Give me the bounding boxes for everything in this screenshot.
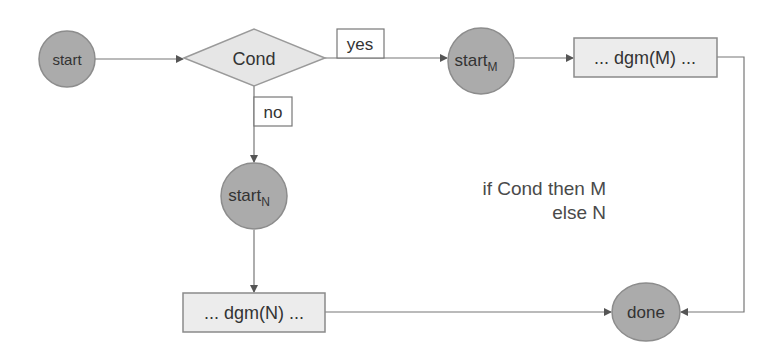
node-start-m-subscript: M xyxy=(488,60,498,74)
node-start-m-text: start xyxy=(454,51,487,70)
node-start-n-subscript: N xyxy=(261,195,270,209)
node-cond-label: Cond xyxy=(232,49,275,69)
caption-line-2: else N xyxy=(420,201,606,225)
node-start-m: startM xyxy=(448,28,514,94)
edge-label-no-text: no xyxy=(264,103,283,122)
edge-dgm-m-to-done xyxy=(681,57,744,312)
node-start-n-text: start xyxy=(228,186,261,205)
node-dgm-m: ... dgm(M) ... xyxy=(574,38,717,77)
node-dgm-n-label: ... dgm(N) ... xyxy=(204,303,304,323)
flowchart-canvas: start Cond yes no startM ... dgm(M) ... … xyxy=(0,0,781,353)
caption: if Cond then M else N xyxy=(420,177,606,225)
edge-label-yes: yes xyxy=(337,29,384,58)
edge-label-yes-text: yes xyxy=(347,35,373,54)
node-done-label: done xyxy=(627,303,665,322)
node-dgm-m-label: ... dgm(M) ... xyxy=(594,48,696,68)
node-start-label: start xyxy=(52,51,82,68)
node-done: done xyxy=(612,283,680,341)
node-start-n: startN xyxy=(221,163,287,229)
node-start: start xyxy=(39,31,95,87)
caption-line-1: if Cond then M xyxy=(420,177,606,201)
node-dgm-n: ... dgm(N) ... xyxy=(183,293,325,332)
edge-label-no: no xyxy=(254,97,292,126)
node-cond: Cond xyxy=(184,29,325,86)
